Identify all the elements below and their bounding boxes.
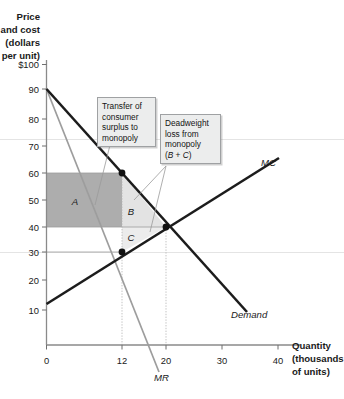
mr-curve-label: MR [154,372,169,383]
x-tick-label: 20 [161,355,171,366]
competitive-equilibrium-point [163,224,170,231]
x-tick-label: 0 [44,355,49,366]
demand-curve-label: Demand [231,309,268,320]
y-tick-label: 80 [29,114,39,125]
y-tick-labels: $100 90 80 70 60 50 40 30 20 10 [18,59,39,316]
mc-curve-label: MC [261,157,276,168]
region-label-a: A [71,196,78,207]
y-tick-label: 70 [29,141,39,152]
transfer-callout-line: monopoly [102,133,151,144]
y-axis-title-line: (dollars [5,37,40,48]
x-tick-label: 30 [217,355,227,366]
y-tick-label: 60 [29,168,39,179]
y-tick-label: 40 [29,222,39,233]
transfer-callout-box: Transfer of consumer surplus to monopoly [97,97,156,147]
deadweight-callout-line: loss from [165,129,216,140]
x-axis-title: Quantity (thousands of units) [292,340,344,377]
deadweight-callout-leader [134,166,166,200]
region-label-b: B [128,206,135,217]
y-tick-label: 50 [29,195,39,206]
y-tick-label: 30 [29,247,39,258]
region-label-c: C [128,232,135,243]
x-axis-title-line: Quantity [292,340,332,351]
y-axis-title-line: Price [17,11,40,22]
y-tick-label: 90 [29,84,39,95]
x-tick-label: 12 [117,355,127,366]
y-axis-title: Price and cost (dollars per unit) [1,11,41,61]
y-axis-title-line: and cost [1,24,41,35]
x-axis-ticks [47,345,279,350]
x-tick-labels: 0 12 20 30 40 [44,355,283,366]
transfer-callout-line: consumer [102,112,151,123]
deadweight-callout-formula: (B + C) [165,150,216,161]
deadweight-callout-line: monopoly [165,139,216,150]
monopoly-mr-mc-point [119,249,126,256]
monopoly-deadweight-loss-figure: $100 90 80 70 60 50 40 30 20 10 0 12 20 … [0,0,344,399]
paren-close: ) [189,150,192,160]
monopoly-price-point [119,170,126,177]
y-tick-label: 10 [29,305,39,316]
deadweight-loss-callout-box: Deadweight loss from monopoly (B + C) [160,114,221,164]
curve-labels: MC MR Demand [154,157,276,383]
x-axis-title-line: of units) [292,366,330,377]
y-axis-title-line: per unit) [2,50,40,61]
transfer-callout-line: surplus to [102,122,151,133]
x-tick-label: 40 [273,355,283,366]
transfer-callout-line: Transfer of [102,101,151,112]
y-tick-label: 20 [29,275,39,286]
y-axis-ticks [42,65,47,311]
region-a-transfer [47,173,123,227]
plus-sign: + [173,150,182,160]
chart-canvas: $100 90 80 70 60 50 40 30 20 10 0 12 20 … [0,0,344,399]
deadweight-callout-line: Deadweight [165,118,216,129]
x-axis-title-line: (thousands [292,353,344,364]
